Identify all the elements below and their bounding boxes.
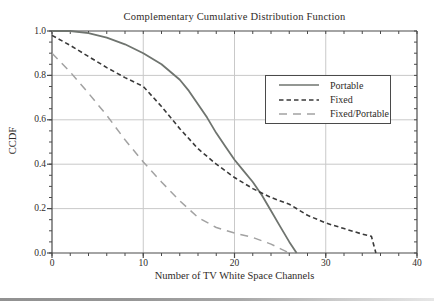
y-tick-label: 1.0 [16, 26, 46, 37]
series-line-portable [52, 31, 297, 253]
y-tick-label: 0.2 [16, 203, 46, 214]
x-tick-label: 10 [139, 258, 149, 269]
x-tick-label: 30 [321, 258, 331, 269]
figure-canvas: Complementary Cumulative Distribution Fu… [0, 0, 434, 304]
page-edge-shadow [0, 298, 434, 301]
y-tick-label: 0.4 [16, 159, 46, 170]
chart-title: Complementary Cumulative Distribution Fu… [52, 11, 417, 22]
x-axis-label: Number of TV White Space Channels [52, 270, 417, 281]
series-line-fixed-portable [52, 53, 289, 253]
legend-item-fixed: Fixed [278, 93, 390, 107]
y-axis-label: CCDF [7, 81, 18, 201]
legend-label-portable: Portable [330, 80, 363, 91]
solid-line-icon [278, 82, 320, 88]
long-dash-line-icon [278, 111, 320, 117]
y-tick-label: 0.8 [16, 70, 46, 81]
short-dash-line-icon [278, 97, 320, 103]
x-tick-label: 20 [230, 258, 240, 269]
legend-item-fixed-portable: Fixed/Portable [278, 107, 390, 121]
legend-label-fixed-portable: Fixed/Portable [330, 108, 389, 119]
plot-area [0, 0, 434, 304]
x-tick-label: 40 [412, 258, 422, 269]
x-tick-label: 0 [50, 258, 55, 269]
y-tick-label: 0.6 [16, 114, 46, 125]
legend-label-fixed: Fixed [330, 94, 353, 105]
y-tick-label: 0.0 [16, 248, 46, 259]
legend-item-portable: Portable [278, 78, 390, 92]
series-line-fixed [52, 35, 376, 253]
legend-box: Portable Fixed Fixed/Portable [265, 75, 391, 124]
